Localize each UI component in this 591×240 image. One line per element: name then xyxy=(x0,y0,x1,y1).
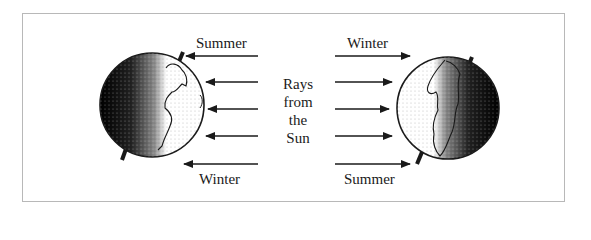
rays-from-the-sun-label: Rays from the Sun xyxy=(268,75,328,147)
left-globe xyxy=(100,52,204,160)
right-globe xyxy=(397,57,499,164)
axis-south-right xyxy=(417,152,422,164)
center-label-line: the xyxy=(268,111,328,129)
center-label-line: Sun xyxy=(268,129,328,147)
left-bottom-label: Winter xyxy=(199,172,240,187)
center-label-line: Rays xyxy=(268,75,328,93)
center-label-line: from xyxy=(268,93,328,111)
left-top-label: Summer xyxy=(196,36,247,51)
right-top-label: Winter xyxy=(347,36,388,51)
right-bottom-label: Summer xyxy=(344,172,395,187)
